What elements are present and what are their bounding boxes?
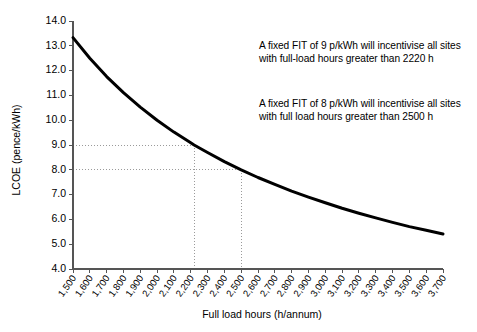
x-tick-label: 3,700 (425, 273, 448, 299)
y-tick-label: 14.0 (46, 14, 67, 26)
y-tick-label: 5.0 (51, 237, 66, 249)
y-tick-label: 10.0 (46, 113, 67, 125)
guide-lines-group (73, 145, 241, 269)
y-tick-label: 12.0 (46, 63, 67, 75)
y-tick-label: 11.0 (46, 88, 66, 100)
annotation-fit-9-pence: A fixed FIT of 9 p/kWh will incentivise … (259, 39, 469, 65)
lcoe-curve (73, 38, 443, 234)
y-tick-label: 9.0 (51, 138, 66, 150)
data-curve-group (73, 38, 443, 234)
y-axis-title: LCOE (pence/kWh) (10, 104, 22, 195)
lcoe-chart: 4.05.06.07.08.09.010.011.012.013.014.0 1… (0, 0, 477, 332)
y-tick-label: 7.0 (51, 187, 66, 199)
y-tick-label: 6.0 (51, 212, 66, 224)
y-tick-labels-group: 4.05.06.07.08.09.010.011.012.013.014.0 (46, 14, 67, 274)
annotation-fit-8-pence: A fixed FIT of 8 p/kWh will incentivise … (259, 97, 469, 123)
y-tick-label: 4.0 (51, 262, 66, 274)
x-axis-title: Full load hours (h/annum) (202, 308, 322, 320)
x-tick-labels-group: 1,5001,6001,7001,8001,9002,0002,1002,200… (55, 273, 448, 299)
y-tick-label: 13.0 (46, 39, 67, 51)
y-tick-label: 8.0 (51, 163, 66, 175)
